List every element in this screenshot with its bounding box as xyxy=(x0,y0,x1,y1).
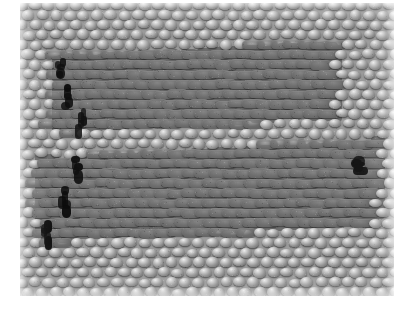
noise-grain-layer xyxy=(20,3,394,296)
micrograph-figure xyxy=(0,0,407,316)
micrograph-image xyxy=(20,3,394,296)
